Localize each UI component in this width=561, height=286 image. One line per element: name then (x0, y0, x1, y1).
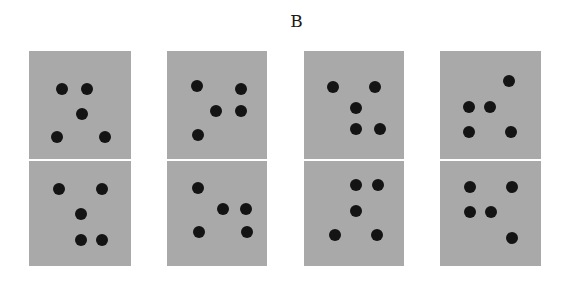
dot-icon (51, 131, 63, 143)
dot-icon (463, 126, 475, 138)
figure-label: B (0, 11, 561, 31)
dot-panel-col4-top (440, 51, 541, 159)
dot-icon (235, 105, 247, 117)
dot-icon (235, 83, 247, 95)
dot-icon (241, 226, 253, 238)
dot-panel-col4-bottom (440, 161, 541, 266)
dot-icon (75, 208, 87, 220)
dot-icon (484, 101, 496, 113)
dot-icon (217, 203, 229, 215)
dot-icon (99, 131, 111, 143)
dot-icon (463, 101, 475, 113)
dot-panel-col2-top (167, 51, 267, 159)
dot-icon (371, 229, 383, 241)
dot-icon (464, 206, 476, 218)
dot-icon (191, 80, 203, 92)
dot-icon (350, 205, 362, 217)
dot-icon (485, 206, 497, 218)
dot-icon (192, 129, 204, 141)
dot-icon (506, 181, 518, 193)
dot-icon (240, 203, 252, 215)
dot-icon (96, 183, 108, 195)
dot-icon (210, 105, 222, 117)
dot-icon (350, 123, 362, 135)
dot-panel-col3-bottom (304, 161, 404, 266)
dot-panel-col1-top (29, 51, 131, 159)
dot-icon (505, 126, 517, 138)
dot-icon (503, 75, 515, 87)
dot-icon (56, 83, 68, 95)
dot-panel-col1-bottom (29, 161, 131, 266)
dot-icon (75, 234, 87, 246)
dot-icon (350, 179, 362, 191)
dot-panel-col3-top (304, 51, 404, 159)
dot-icon (53, 183, 65, 195)
dot-icon (372, 179, 384, 191)
dot-icon (350, 102, 362, 114)
dot-icon (96, 234, 108, 246)
dot-icon (192, 182, 204, 194)
dot-icon (464, 181, 476, 193)
dot-icon (193, 226, 205, 238)
dot-panel-col2-bottom (167, 161, 267, 266)
dot-icon (81, 83, 93, 95)
dot-icon (369, 81, 381, 93)
dot-icon (327, 81, 339, 93)
dot-icon (76, 108, 88, 120)
dot-icon (506, 232, 518, 244)
dot-icon (374, 123, 386, 135)
dot-icon (329, 229, 341, 241)
